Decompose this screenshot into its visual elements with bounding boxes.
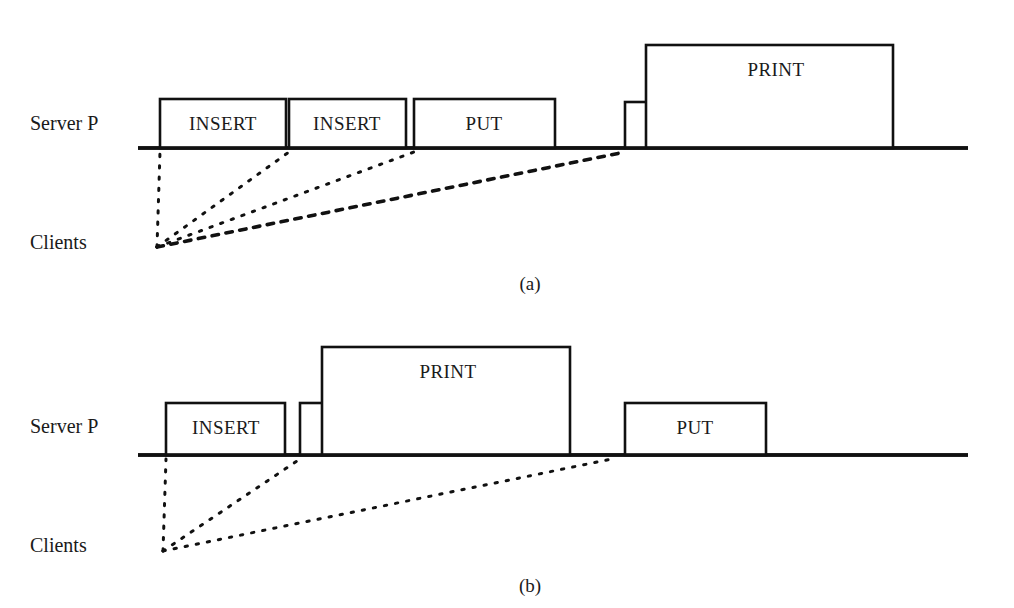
operation-label: PUT xyxy=(676,417,713,438)
panel-b: Server PClientsINSERTGETPRINTPUT(b) xyxy=(30,347,968,597)
server-row-label: Server P xyxy=(30,112,98,134)
panel-a: Server PClientsINSERTINSERTPUTGETPRINT(a… xyxy=(30,45,968,295)
operation-label: INSERT xyxy=(192,417,260,438)
client-request-line xyxy=(157,152,414,247)
operation-label: INSERT xyxy=(313,113,381,134)
operation-label: PRINT xyxy=(748,59,805,80)
panel-caption: (b) xyxy=(519,575,541,597)
client-request-line xyxy=(157,152,625,247)
server-row-label: Server P xyxy=(30,415,98,437)
operation-label: PRINT xyxy=(420,361,477,382)
client-request-line xyxy=(157,152,289,247)
panel-caption: (a) xyxy=(519,273,540,295)
client-request-line xyxy=(163,459,166,551)
timing-diagram-svg: Server PClientsINSERTINSERTPUTGETPRINT(a… xyxy=(0,0,1014,608)
operation-label: PUT xyxy=(465,113,502,134)
clients-row-label: Clients xyxy=(30,534,87,556)
operation-label: INSERT xyxy=(189,113,257,134)
clients-row-label: Clients xyxy=(30,231,87,253)
client-request-line xyxy=(157,152,160,247)
figure-canvas: Server PClientsINSERTINSERTPUTGETPRINT(a… xyxy=(0,0,1014,608)
